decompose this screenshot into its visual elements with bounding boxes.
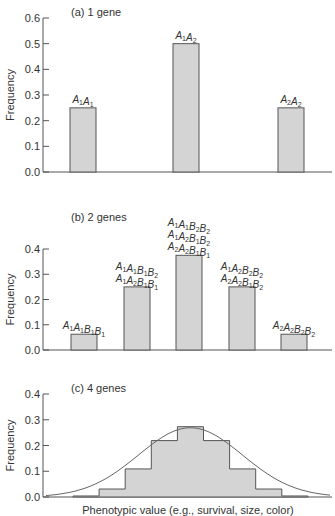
bar [278,108,304,172]
y-tick-label: 0.4 [25,388,40,400]
y-tick-label: 0.4 [25,243,40,255]
bar [124,287,150,350]
y-tick-label: 0.3 [25,414,40,426]
y-axis-label: Frequency [4,419,16,471]
bar [281,334,307,350]
y-tick-label: 0.4 [25,63,40,75]
y-tick-label: 0.5 [25,38,40,50]
bar [173,44,199,172]
panel-title: (a) 1 gene [71,6,121,18]
y-axis-label: Frequency [4,69,16,121]
genotype-label: A1A2 [174,30,196,44]
y-tick-label: 0.1 [25,140,40,152]
y-tick-label: 0.3 [25,268,40,280]
y-tick-label: 0.2 [25,294,40,306]
bar [70,108,96,172]
y-tick-label: 0.0 [25,344,40,356]
panel-title: (c) 4 genes [71,382,127,394]
panel-c-4-genes: 0.00.10.20.30.4Frequency(c) 4 genesPheno… [4,382,332,516]
y-tick-label: 0.1 [25,319,40,331]
chart-figure: 0.00.10.20.30.40.50.6Frequency(a) 1 gene… [0,0,335,516]
y-tick-label: 0.0 [25,491,40,503]
y-axis-label: Frequency [4,273,16,325]
genotype-label: A2A2 [279,94,301,108]
y-tick-label: 0.2 [25,440,40,452]
bar [176,255,202,350]
y-tick-label: 0.6 [25,12,40,24]
y-tick-label: 0.0 [25,166,40,178]
panel-title: (b) 2 genes [71,211,127,223]
panel-a-1-gene: 0.00.10.20.30.40.50.6Frequency(a) 1 gene… [4,6,332,178]
genotype-label: A1A1 [71,94,93,108]
y-tick-label: 0.2 [25,115,40,127]
panel-b-2-genes: 0.00.10.20.30.4Frequency(b) 2 genesA1A1B… [4,211,332,356]
histogram-steps [73,427,308,497]
bar [71,334,97,350]
x-axis-label: Phenotypic value (e.g., survival, size, … [82,504,294,516]
bar [229,287,255,350]
y-tick-label: 0.3 [25,89,40,101]
y-tick-label: 0.1 [25,465,40,477]
